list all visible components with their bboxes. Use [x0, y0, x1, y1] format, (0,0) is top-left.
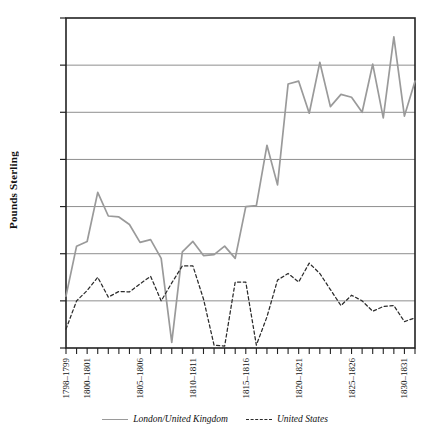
x-axis-tick-labels: 1798–17991800–18011805–18061810–18111815… [0, 0, 430, 437]
x-tick-label: 1815–1816 [241, 358, 251, 399]
legend-swatch-icon [102, 419, 128, 420]
x-tick-label: 1800–1801 [82, 358, 92, 399]
legend-label: London/United Kingdom [133, 414, 228, 424]
x-tick-label: 1798–1799 [61, 358, 71, 399]
legend-label: United States [277, 414, 328, 424]
x-tick-label: 1825–1826 [347, 358, 357, 399]
legend-swatch-icon [246, 419, 272, 420]
x-tick-label: 1810–1811 [188, 358, 198, 398]
x-tick-label: 1805–1806 [135, 358, 145, 399]
chart-figure: Pounds Sterling 3,500,0003,000,0002,500,… [0, 0, 430, 437]
x-tick-label: 1820–1821 [294, 358, 304, 399]
x-tick-label: 1830–1831 [399, 358, 409, 399]
legend-entry: London/United Kingdom [102, 414, 228, 424]
legend-entry: United States [246, 414, 328, 424]
chart-legend: London/United KingdomUnited States [0, 409, 430, 429]
